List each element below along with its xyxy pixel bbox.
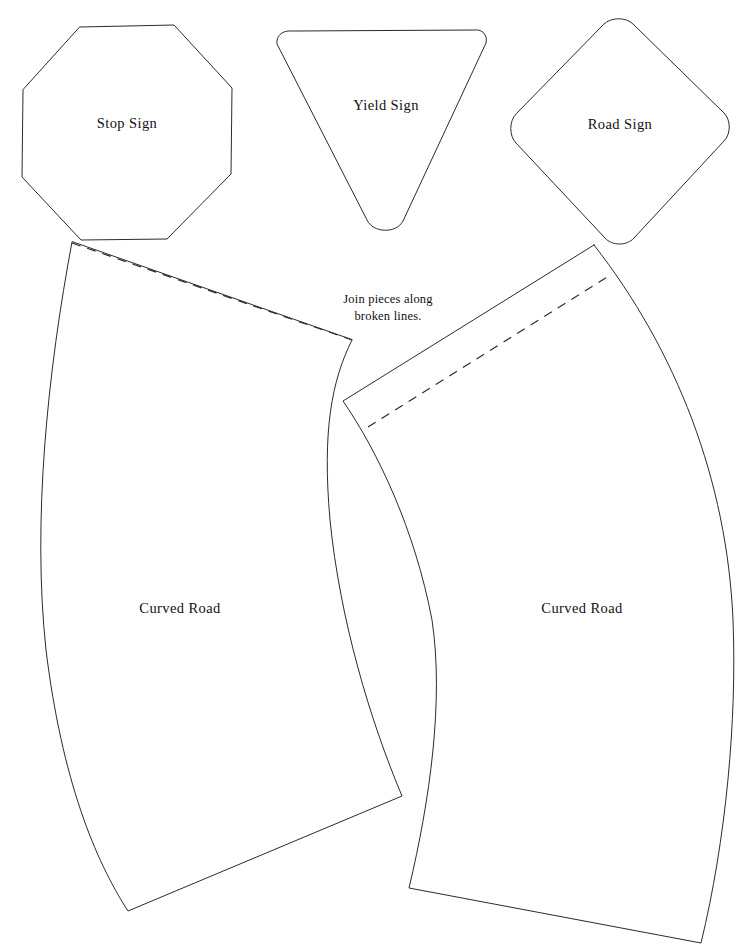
curved-road-right-label: Curved Road	[541, 600, 623, 616]
stop-sign-outline[interactable]	[22, 25, 232, 240]
instruction-line-2: broken lines.	[354, 309, 421, 323]
piece-curved-road-left[interactable]: Curved Road	[41, 242, 402, 911]
yield-sign-label: Yield Sign	[353, 97, 419, 113]
piece-curved-road-right[interactable]: Curved Road	[343, 245, 734, 943]
pattern-sheet: Stop Sign Yield Sign Road Sign Curved Ro…	[0, 0, 748, 945]
road-sign-label: Road Sign	[588, 116, 653, 132]
stop-sign-label: Stop Sign	[97, 115, 158, 131]
yield-sign-outline[interactable]	[277, 30, 486, 230]
instruction-note: Join pieces along broken lines.	[343, 292, 433, 323]
curved-road-right-outline[interactable]	[343, 245, 734, 943]
piece-stop-sign[interactable]: Stop Sign	[22, 25, 232, 240]
piece-road-sign[interactable]: Road Sign	[511, 19, 730, 244]
piece-yield-sign[interactable]: Yield Sign	[277, 30, 486, 230]
curved-road-left-outline[interactable]	[41, 242, 402, 911]
curved-road-left-label: Curved Road	[139, 600, 221, 616]
instruction-line-1: Join pieces along	[343, 292, 433, 306]
pattern-canvas: Stop Sign Yield Sign Road Sign Curved Ro…	[0, 0, 748, 945]
